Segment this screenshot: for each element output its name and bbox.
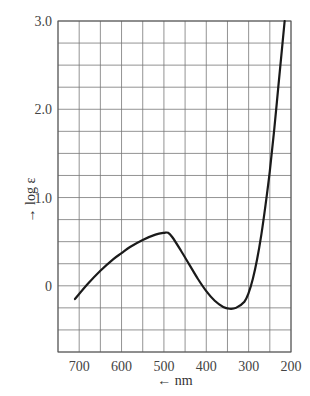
y-tick-labels: 01.02.03.0 — [35, 14, 53, 294]
x-tick-label: 500 — [153, 359, 174, 374]
x-tick-label: 600 — [111, 359, 132, 374]
y-tick-label: 0 — [45, 279, 52, 294]
grid-lines — [58, 21, 291, 352]
x-tick-label: 400 — [196, 359, 217, 374]
x-tick-label: 300 — [238, 359, 259, 374]
absorption-chart: 01.02.03.0 700600500400300200 → log ε ← … — [0, 0, 310, 396]
x-tick-label: 700 — [69, 359, 90, 374]
plot-frame — [58, 21, 291, 352]
y-axis-label: → log ε — [23, 178, 38, 223]
x-tick-label: 200 — [281, 359, 302, 374]
x-tick-labels: 700600500400300200 — [69, 359, 302, 374]
spectrum-curve — [75, 21, 285, 309]
y-tick-label: 2.0 — [35, 102, 53, 117]
x-axis-label: ← nm — [157, 373, 193, 388]
y-tick-label: 3.0 — [35, 14, 53, 29]
